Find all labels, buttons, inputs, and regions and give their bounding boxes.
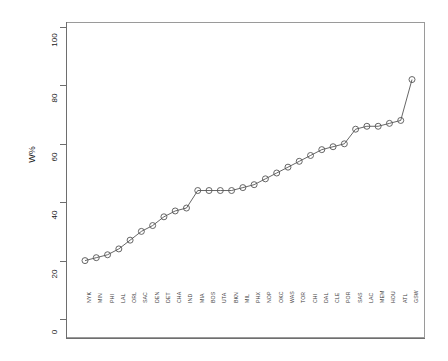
x-axis-tick-label: OKC: [279, 291, 284, 303]
x-axis-tick-label: BKN: [234, 292, 239, 303]
x-axis-tick-label: DEN: [155, 292, 160, 303]
x-axis-tick-label: DAL: [324, 293, 329, 303]
x-axis-tick-label: PHX: [256, 292, 261, 303]
y-axis-line: [66, 22, 67, 338]
y-axis-tick-label: 40: [51, 202, 59, 228]
x-axis-tick-label: MEM: [380, 291, 385, 303]
x-axis-tick-label: CLE: [335, 293, 340, 303]
y-axis-tick: [60, 85, 66, 86]
x-axis-tick-label: MIN: [98, 293, 103, 303]
x-axis-tick-label: MIA: [200, 293, 205, 303]
x-axis-tick-label: WAS: [290, 291, 295, 303]
x-axis-tick-label: NYK: [87, 292, 92, 303]
y-axis-title: W%: [28, 146, 37, 163]
x-axis-tick-label: DET: [166, 292, 171, 303]
x-axis-tick-label: NOP: [267, 291, 272, 303]
x-axis-tick-label: ATL: [403, 294, 408, 303]
y-axis-tick: [60, 27, 66, 28]
x-axis-tick-label: HOU: [391, 291, 396, 303]
y-axis-tick: [60, 319, 66, 320]
y-axis-tick-label: 20: [51, 261, 59, 287]
x-axis-tick-label: TOR: [301, 292, 306, 303]
x-axis-tick-label: IND: [188, 294, 193, 303]
x-axis-tick-label: LAL: [121, 293, 126, 303]
y-axis-tick-label: 80: [51, 85, 59, 111]
x-axis-tick-label: SAC: [143, 292, 148, 303]
x-axis-tick-label: SAS: [358, 292, 363, 303]
x-axis-tick-label: MIL: [245, 294, 250, 303]
y-axis-tick: [60, 261, 66, 262]
y-axis-tick: [60, 202, 66, 203]
x-axis-tick-label: LAC: [369, 293, 374, 303]
y-axis-tick: [60, 144, 66, 145]
x-axis-tick-label: POR: [346, 291, 351, 303]
y-axis-tick-label: 0: [51, 319, 59, 345]
x-axis-tick-label: GSW: [414, 290, 419, 303]
y-axis-tick-label: 100: [51, 27, 59, 53]
x-axis-tick-label: PHI: [110, 294, 115, 303]
x-axis-tick-label: CHA: [177, 292, 182, 303]
x-axis-tick-label: BOS: [211, 292, 216, 303]
y-axis-tick-label: 60: [51, 144, 59, 170]
x-axis-line: [66, 338, 425, 339]
x-axis-tick-label: UTA: [222, 293, 227, 303]
x-axis-tick-label: ORL: [132, 292, 137, 303]
chart-container: 020406080100 W% NYKMINPHILALORLSACDENDET…: [0, 0, 448, 361]
x-axis-tick-label: CHI: [313, 294, 318, 303]
plot-frame: [66, 22, 425, 338]
